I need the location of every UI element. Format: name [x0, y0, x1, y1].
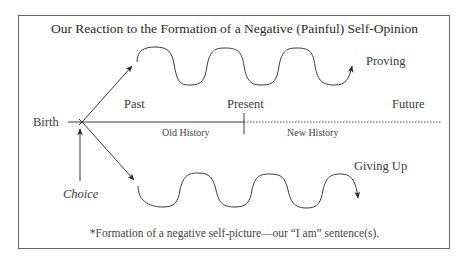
label-past: Past [124, 98, 145, 111]
arrow-to-proving [83, 66, 132, 121]
proving-wave [137, 47, 352, 85]
label-new-history: New History [287, 128, 338, 138]
label-old-history: Old History [162, 128, 210, 138]
diagram-graphics [0, 0, 469, 263]
footnote: *Formation of a negative self-picture—ou… [0, 228, 469, 240]
label-future: Future [392, 98, 425, 111]
label-choice: Choice [63, 188, 98, 201]
label-present: Present [227, 98, 264, 111]
giving-up-wave [138, 173, 358, 208]
diagram-title: Our Reaction to the Formation of a Negat… [0, 22, 469, 36]
label-proving: Proving [366, 55, 406, 68]
label-giving-up: Giving Up [354, 160, 407, 173]
label-birth: Birth [33, 116, 59, 129]
arrow-to-giving-up [83, 123, 134, 180]
